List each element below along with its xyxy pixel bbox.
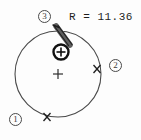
callout-badge-1[interactable]: 1 [9,113,22,126]
center-cross-icon [53,69,63,79]
point-marker-bottom-icon [44,113,51,121]
callout-badge-3[interactable]: 3 [38,10,51,23]
callout-badge-2[interactable]: 2 [109,59,122,72]
crosshair-target-icon [54,45,69,60]
point-marker-right-icon [94,65,101,73]
diagram-canvas: R = 11.36 3 2 1 [0,0,141,140]
probe-bar-icon [53,25,72,46]
radius-dimension-label: R = 11.36 [69,11,133,23]
